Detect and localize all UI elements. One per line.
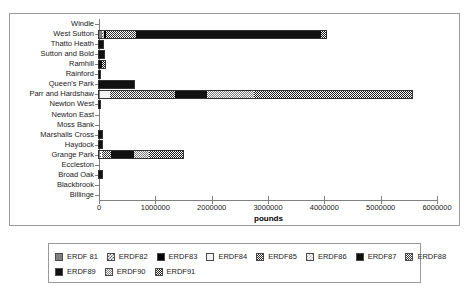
bar-row: Blackbrook: [99, 180, 437, 190]
stacked-bar[interactable]: [99, 131, 102, 138]
bar-row: Eccleston: [99, 160, 437, 170]
legend-swatch-icon: [155, 268, 163, 276]
x-tick-label: 2000000: [197, 203, 226, 212]
category-label: Rainford: [66, 69, 94, 78]
stacked-bar[interactable]: [99, 81, 134, 88]
category-label: Broad Oak: [58, 170, 94, 179]
legend-item[interactable]: ERDF90: [105, 267, 146, 276]
legend-swatch-icon: [107, 253, 115, 261]
x-tick-label: 6000000: [422, 203, 451, 212]
x-tick-label: 0: [97, 203, 101, 212]
bar-row: Haydock: [99, 140, 437, 150]
bar-row: Parr and Hardshaw: [99, 89, 437, 99]
bar-segment[interactable]: [99, 51, 104, 58]
category-label: Ramhill: [69, 59, 94, 68]
legend-item[interactable]: ERDF84: [206, 252, 247, 261]
legend-label: ERDF85: [268, 252, 297, 261]
bar-segment[interactable]: [99, 171, 102, 178]
bar-segment[interactable]: [149, 151, 182, 158]
legend-label: ERDF86: [318, 252, 347, 261]
stacked-bar[interactable]: [99, 71, 100, 78]
legend-row: ERDF89ERDF90ERDF91: [55, 264, 414, 279]
legend-item[interactable]: ERDF 81: [55, 252, 98, 261]
bar-row: Moss Bank: [99, 120, 437, 130]
legend-swatch-icon: [157, 253, 165, 261]
legend-item[interactable]: ERDF86: [306, 252, 347, 261]
bar-row: West Sutton: [99, 29, 437, 39]
bar-segment[interactable]: [111, 151, 134, 158]
bar-segment[interactable]: [100, 91, 110, 98]
legend-item[interactable]: ERDF87: [356, 252, 397, 261]
category-label: Thatto Heath: [51, 39, 94, 48]
legend-label: ERDF 81: [67, 252, 98, 261]
stacked-bar[interactable]: [99, 51, 104, 58]
category-label: Haydock: [65, 140, 94, 149]
bar-row: Windle: [99, 19, 437, 29]
bar-segment[interactable]: [134, 151, 150, 158]
category-label: Eccleston: [61, 160, 94, 169]
legend-row: ERDF 81ERDF82ERDF83ERDF84ERDF85ERDF86ERD…: [55, 249, 414, 264]
bar-row: Newton West: [99, 99, 437, 109]
bar-row: Newton East: [99, 110, 437, 120]
stacked-bar[interactable]: [99, 101, 100, 108]
bar-segment[interactable]: [120, 31, 135, 38]
legend-label: ERDF89: [67, 267, 96, 276]
bar-row: Billinge: [99, 190, 437, 200]
legend-label: ERDF83: [169, 252, 198, 261]
category-label: Parr and Hardshaw: [29, 89, 94, 98]
x-tick-label: 3000000: [253, 203, 282, 212]
bar-segment[interactable]: [99, 101, 100, 108]
bar-row: Marshalls Cross: [99, 130, 437, 140]
x-axis-title: pounds: [99, 214, 438, 223]
x-tick-label: 1000000: [141, 203, 170, 212]
x-axis-tick-inner: [437, 196, 438, 200]
legend-label: ERDF91: [167, 267, 196, 276]
legend-item[interactable]: ERDF89: [55, 267, 96, 276]
legend-label: ERDF90: [117, 267, 146, 276]
bar-segment[interactable]: [110, 91, 175, 98]
bar-segment[interactable]: [99, 131, 102, 138]
category-label: Newton East: [51, 110, 94, 119]
category-label: Queen's Park: [49, 79, 94, 88]
stacked-bar[interactable]: [99, 151, 183, 158]
stacked-bar[interactable]: [99, 171, 102, 178]
bar-segment[interactable]: [321, 31, 326, 38]
bar-segment[interactable]: [99, 71, 100, 78]
x-tick-label: 5000000: [366, 203, 395, 212]
bar-segment[interactable]: [207, 91, 255, 98]
bar-segment[interactable]: [99, 81, 134, 88]
bar-row: Ramhill: [99, 59, 437, 69]
legend-item[interactable]: ERDF82: [107, 252, 148, 261]
bar-segment[interactable]: [136, 31, 322, 38]
bar-segment[interactable]: [102, 61, 105, 68]
stacked-bar[interactable]: [99, 141, 102, 148]
chart-container: WindleWest SuttonThatto HeathSutton and …: [0, 0, 469, 304]
bar-segment[interactable]: [99, 141, 102, 148]
category-label: Blackbrook: [57, 180, 94, 189]
category-label: Marshalls Cross: [40, 130, 94, 139]
bar-segment[interactable]: [175, 91, 207, 98]
bar-segment[interactable]: [102, 151, 111, 158]
bar-segment[interactable]: [99, 41, 103, 48]
legend-swatch-icon: [55, 253, 63, 261]
category-label: Sutton and Bold: [41, 49, 94, 58]
stacked-bar[interactable]: [99, 41, 103, 48]
legend-item[interactable]: ERDF91: [155, 267, 196, 276]
bar-segment[interactable]: [254, 91, 412, 98]
legend-item[interactable]: ERDF88: [405, 252, 446, 261]
category-label: Windle: [71, 19, 94, 28]
legend-item[interactable]: ERDF83: [157, 252, 198, 261]
legend-swatch-icon: [206, 253, 214, 261]
stacked-bar[interactable]: [99, 91, 412, 98]
category-label: West Sutton: [53, 29, 94, 38]
bar-segment[interactable]: [106, 31, 120, 38]
legend-swatch-icon: [356, 253, 364, 261]
stacked-bar[interactable]: [99, 61, 105, 68]
chart-legend: ERDF 81ERDF82ERDF83ERDF84ERDF85ERDF86ERD…: [48, 243, 421, 283]
legend-swatch-icon: [256, 253, 264, 261]
stacked-bar[interactable]: [99, 31, 326, 38]
category-label: Moss Bank: [57, 120, 94, 129]
bar-row: Sutton and Bold: [99, 49, 437, 59]
legend-item[interactable]: ERDF85: [256, 252, 297, 261]
bar-row: Rainford: [99, 69, 437, 79]
